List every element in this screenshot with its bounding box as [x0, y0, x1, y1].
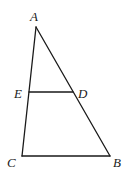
label-e: E	[13, 86, 22, 101]
label-c: C	[7, 155, 16, 170]
triangle-diagram: A E D C B	[0, 0, 127, 171]
label-b: B	[113, 155, 121, 170]
label-d: D	[77, 86, 88, 101]
label-a: A	[29, 9, 38, 24]
